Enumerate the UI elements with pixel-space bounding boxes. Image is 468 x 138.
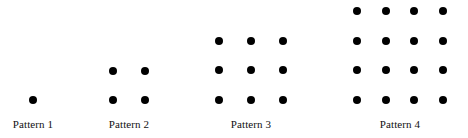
dot <box>353 7 361 15</box>
dot <box>382 66 390 74</box>
pattern-label-3: Pattern 3 <box>191 118 311 130</box>
dot <box>410 66 418 74</box>
dot <box>410 96 418 104</box>
dot <box>382 96 390 104</box>
dot <box>382 37 390 45</box>
dot-pattern-figure: Pattern 1Pattern 2Pattern 3Pattern 4 <box>0 0 468 138</box>
dot <box>439 96 447 104</box>
pattern-label-2: Pattern 2 <box>69 118 189 130</box>
dot <box>353 96 361 104</box>
dot <box>353 37 361 45</box>
dot <box>353 66 361 74</box>
dot <box>439 37 447 45</box>
dot <box>382 7 390 15</box>
dot <box>410 37 418 45</box>
dot <box>410 7 418 15</box>
pattern-label-4: Pattern 4 <box>340 118 460 130</box>
dot <box>439 7 447 15</box>
dot <box>439 66 447 74</box>
